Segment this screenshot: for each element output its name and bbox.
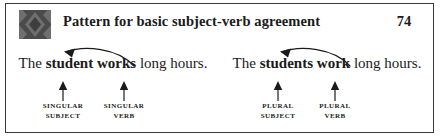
example-sentence: The students work long hours. [220, 55, 434, 72]
figure-header: Pattern for basic subject-verb agreement… [6, 4, 435, 42]
verb-label: SINGULAR VERB [84, 102, 164, 121]
sentence-verb: works [97, 55, 136, 71]
sentence-lead: The [233, 55, 260, 71]
figure-frame: Pattern for basic subject-verb agreement… [5, 3, 434, 133]
verb-label-line1: PLURAL [295, 102, 375, 112]
page-title: Pattern for basic subject-verb agreement [63, 13, 320, 30]
example-labels: PLURAL SUBJECT PLURAL VERB [220, 102, 434, 130]
figure-root: Pattern for basic subject-verb agreement… [0, 0, 446, 139]
sentence-verb: work [317, 55, 350, 71]
verb-pointer-arrow-icon [120, 81, 128, 101]
verb-label-line2: VERB [295, 112, 375, 122]
verb-label: PLURAL VERB [295, 102, 375, 121]
sentence-tail: long hours. [136, 55, 207, 71]
sentence-subject: students [260, 55, 313, 71]
subject-pointer-arrow-icon [59, 81, 67, 101]
sentence-subject: student [46, 55, 94, 71]
sentence-tail: long hours. [350, 55, 421, 71]
subject-pointer-arrow-icon [274, 81, 282, 101]
pointer-arrows [220, 80, 434, 102]
diamond-pattern-icon [19, 10, 51, 39]
pointer-arrows [6, 80, 220, 102]
example-labels: SINGULAR SUBJECT SINGULAR VERB [6, 102, 220, 130]
page-number: 74 [389, 13, 419, 30]
verb-label-line2: VERB [84, 112, 164, 122]
verb-label-line1: SINGULAR [84, 102, 164, 112]
plural-example: The students work long hours. PLURAL [220, 42, 434, 134]
verb-pointer-arrow-icon [331, 81, 339, 101]
singular-example: The student works long hours. SINGULAR [6, 42, 220, 134]
examples-container: The student works long hours. SINGULAR [6, 42, 435, 134]
sentence-lead: The [19, 55, 46, 71]
example-sentence: The student works long hours. [6, 55, 220, 72]
